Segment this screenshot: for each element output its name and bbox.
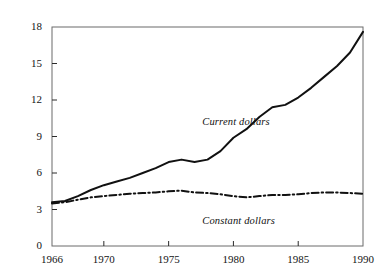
x-axis-tick-label: 1975 (145, 254, 193, 265)
series-label-current-dollars: Current dollars (202, 117, 270, 128)
y-axis-tick-label: 6 (12, 167, 42, 178)
y-axis-tick-label: 12 (12, 94, 42, 105)
y-axis-tick-label: 3 (12, 204, 42, 215)
x-axis-tick-label: 1985 (274, 254, 322, 265)
x-axis-tick-label: 1966 (28, 254, 76, 265)
plot-frame (52, 27, 363, 246)
x-axis-ticks (104, 241, 298, 246)
series-label-constant-dollars: Constant dollars (202, 216, 275, 227)
chart-container: 0369121518 196619701975198019851990 Curr… (0, 0, 382, 276)
y-axis-tick-label: 18 (12, 21, 42, 32)
y-axis-tick-label: 15 (12, 58, 42, 69)
y-axis-ticks (52, 64, 57, 210)
y-axis-tick-label: 9 (12, 131, 42, 142)
y-axis-tick-label: 0 (12, 240, 42, 251)
line-chart-plot (0, 0, 382, 276)
x-axis-tick-label: 1990 (339, 254, 382, 265)
series-line-constant-dollars (52, 191, 363, 204)
x-axis-tick-label: 1980 (209, 254, 257, 265)
x-axis-tick-label: 1970 (80, 254, 128, 265)
